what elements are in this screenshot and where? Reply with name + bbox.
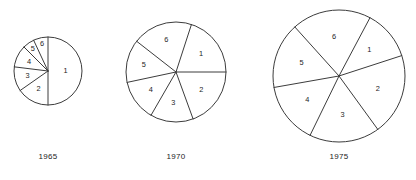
pie-slice-label-3: 3	[25, 71, 29, 80]
pie-chart-1975: 123456	[269, 6, 409, 146]
pie-slice-label-5: 5	[142, 60, 146, 69]
pie-slice-label-2: 2	[37, 84, 41, 93]
pie-slice-label-5: 5	[31, 44, 35, 53]
pie-slice-label-1: 1	[367, 45, 371, 54]
pie-slice-label-2: 2	[376, 84, 380, 93]
pie-slice-label-4: 4	[305, 95, 309, 104]
pie-slice-label-6: 6	[164, 35, 168, 44]
pie-chart-1965: 123456	[10, 33, 86, 109]
pie-slice-label-3: 3	[340, 110, 344, 119]
pie-slice-label-1: 1	[199, 49, 203, 58]
pie-chart-figure: 123456196512345619701234561975	[0, 0, 416, 180]
pie-caption-1970: 1970	[167, 152, 186, 161]
pie-slice-label-3: 3	[171, 98, 175, 107]
pie-slice-label-6: 6	[332, 32, 336, 41]
pie-slice-label-1: 1	[64, 66, 68, 75]
pie-caption-1975: 1975	[330, 152, 349, 161]
pie-slice-label-4: 4	[149, 85, 153, 94]
pie-caption-1965: 1965	[39, 152, 58, 161]
pie-slice-label-6: 6	[40, 39, 44, 48]
pie-slice-label-2: 2	[199, 85, 203, 94]
pie-chart-1970: 123456	[122, 18, 230, 126]
pie-slice-label-5: 5	[299, 58, 303, 67]
pie-slice-label-4: 4	[27, 57, 31, 66]
